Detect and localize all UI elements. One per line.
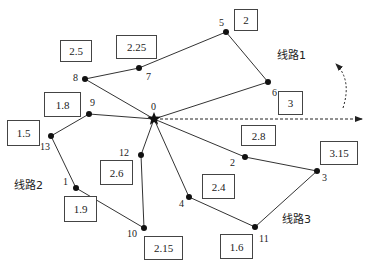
depot-label: 0 — [151, 102, 156, 112]
route-label: 线路1 — [277, 46, 306, 62]
weight-box: 1.5 — [7, 120, 40, 146]
route-label: 线路2 — [14, 176, 43, 192]
weight-box: 3.15 — [320, 141, 358, 165]
node-label: 2 — [230, 158, 235, 168]
weight-box: 1.8 — [44, 92, 81, 117]
customer-node — [73, 185, 79, 191]
node-label: 3 — [322, 173, 327, 183]
customer-node — [252, 224, 258, 230]
node-label: 8 — [73, 73, 78, 83]
node-label: 6 — [272, 88, 277, 98]
weight-box: 2.15 — [144, 236, 183, 260]
star-icon — [147, 112, 160, 125]
node-label: 12 — [119, 148, 129, 158]
node-label: 11 — [259, 234, 269, 244]
node-label: 13 — [40, 142, 50, 152]
weight-box: 2.25 — [116, 35, 157, 59]
route-label: 线路3 — [282, 210, 311, 226]
customer-node — [48, 133, 54, 139]
node-label: 7 — [146, 72, 151, 82]
node-label: 4 — [179, 199, 184, 209]
weight-box: 2.8 — [241, 125, 276, 146]
customer-node — [82, 76, 88, 82]
customer-node — [138, 152, 144, 158]
customer-node — [141, 225, 147, 231]
node-label: 5 — [219, 18, 224, 28]
route-graph — [0, 0, 367, 261]
node-label: 9 — [90, 98, 95, 108]
weight-box: 1.6 — [220, 234, 253, 259]
weight-box: 2.4 — [202, 174, 235, 199]
node-label: 10 — [127, 229, 137, 239]
weight-box: 2 — [234, 9, 258, 31]
weight-box: 2.6 — [100, 160, 133, 185]
weight-box: 3 — [278, 91, 303, 115]
customer-node — [314, 168, 320, 174]
vehicle-routing-diagram: 01234567891011121322.52.2531.81.52.83.15… — [0, 0, 367, 261]
customer-node — [186, 194, 192, 200]
customer-node — [86, 111, 92, 117]
route-line-1 — [85, 32, 268, 119]
customer-node — [136, 65, 142, 71]
curved-dashed-arrow-icon — [336, 64, 346, 108]
customer-node — [242, 154, 248, 160]
weight-box: 1.9 — [64, 196, 97, 222]
weight-box: 2.5 — [60, 40, 92, 62]
customer-node — [223, 29, 229, 35]
customer-node — [265, 79, 271, 85]
node-label: 1 — [63, 177, 68, 187]
